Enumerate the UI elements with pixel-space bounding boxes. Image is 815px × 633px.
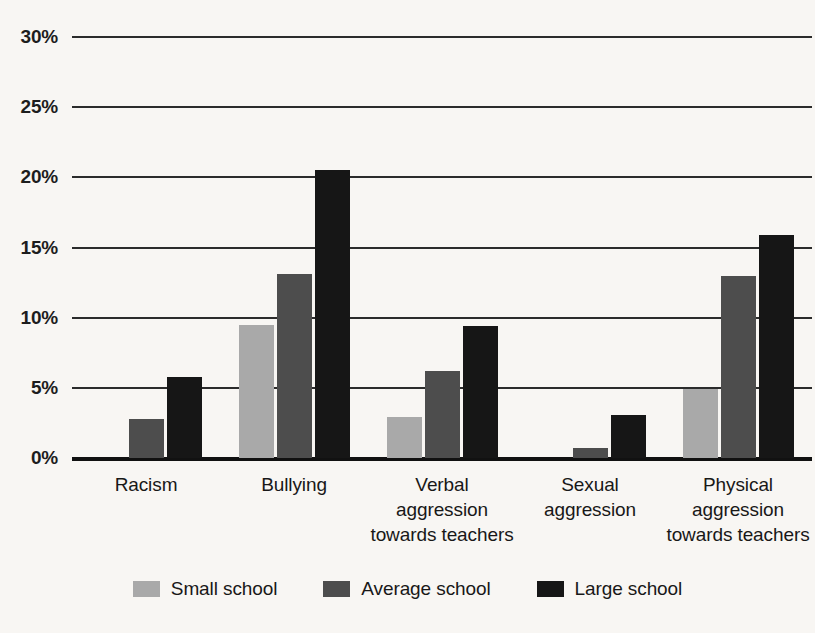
- bar-bullying-small-school: [239, 325, 274, 458]
- y-tick-0%: 0%: [0, 447, 58, 469]
- category-label-line: aggression: [656, 497, 815, 522]
- y-tick-15%: 15%: [0, 237, 58, 259]
- y-tick-30%: 30%: [0, 26, 58, 48]
- gridline-15%: [72, 247, 812, 249]
- bar-bullying-large-school: [315, 170, 350, 458]
- legend-swatch-icon: [133, 581, 160, 597]
- bar-physical-aggression-towards-teachers-large-school: [759, 235, 794, 458]
- gridline-25%: [72, 106, 812, 108]
- bar-physical-aggression-towards-teachers-average-school: [721, 276, 756, 458]
- legend-label: Average school: [361, 578, 490, 600]
- bar-sexual-aggression-average-school: [573, 448, 608, 458]
- category-label-line: Physical: [656, 472, 815, 497]
- bar-verbal-aggression-towards-teachers-small-school: [387, 417, 422, 458]
- category-label-physical-aggression-towards-teachers: Physicalaggressiontowards teachers: [656, 472, 815, 547]
- gridline-20%: [72, 176, 812, 178]
- chart-legend: Small schoolAverage schoolLarge school: [0, 578, 815, 600]
- category-label-sexual-aggression: Sexualaggression: [508, 472, 672, 522]
- category-label-line: Bullying: [212, 472, 376, 497]
- bar-verbal-aggression-towards-teachers-large-school: [463, 326, 498, 458]
- legend-item-small-school[interactable]: Small school: [133, 578, 278, 600]
- legend-item-large-school[interactable]: Large school: [537, 578, 683, 600]
- category-label-line: aggression: [360, 497, 524, 522]
- y-tick-10%: 10%: [0, 307, 58, 329]
- category-label-line: towards teachers: [360, 522, 524, 547]
- bar-verbal-aggression-towards-teachers-average-school: [425, 371, 460, 458]
- bar-sexual-aggression-large-school: [611, 415, 646, 459]
- legend-item-average-school[interactable]: Average school: [323, 578, 490, 600]
- legend-label: Large school: [575, 578, 683, 600]
- bar-racism-large-school: [167, 377, 202, 458]
- plot-area: [72, 37, 812, 458]
- category-label-line: Sexual: [508, 472, 672, 497]
- y-tick-20%: 20%: [0, 166, 58, 188]
- legend-label: Small school: [171, 578, 278, 600]
- bar-physical-aggression-towards-teachers-small-school: [683, 389, 718, 458]
- legend-swatch-icon: [537, 581, 564, 597]
- gridline-10%: [72, 317, 812, 319]
- category-label-line: Verbal: [360, 472, 524, 497]
- y-tick-25%: 25%: [0, 96, 58, 118]
- category-label-line: towards teachers: [656, 522, 815, 547]
- category-label-line: aggression: [508, 497, 672, 522]
- y-tick-5%: 5%: [0, 377, 58, 399]
- bar-bullying-average-school: [277, 274, 312, 458]
- legend-swatch-icon: [323, 581, 350, 597]
- category-label-bullying: Bullying: [212, 472, 376, 497]
- category-label-verbal-aggression-towards-teachers: Verbalaggressiontowards teachers: [360, 472, 524, 547]
- category-label-line: Racism: [64, 472, 228, 497]
- gridline-30%: [72, 36, 812, 38]
- category-label-racism: Racism: [64, 472, 228, 497]
- bar-chart: 0%5%10%15%20%25%30% RacismBullyingVerbal…: [0, 0, 815, 633]
- bar-racism-average-school: [129, 419, 164, 458]
